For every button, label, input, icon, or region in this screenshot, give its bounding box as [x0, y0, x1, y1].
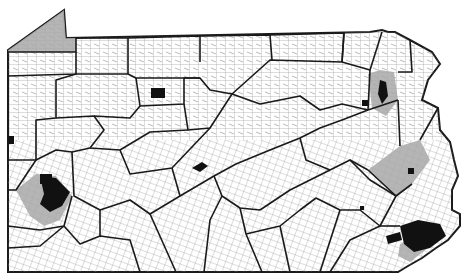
urban-elk-block: [151, 88, 165, 98]
urban-new-castle: [8, 136, 14, 144]
pennsylvania-map: [0, 0, 464, 276]
urban-allentown: [408, 168, 414, 174]
urban-wilkes-barre: [362, 100, 368, 106]
urban-butler-block: [40, 174, 52, 184]
urban-reading: [360, 206, 364, 210]
